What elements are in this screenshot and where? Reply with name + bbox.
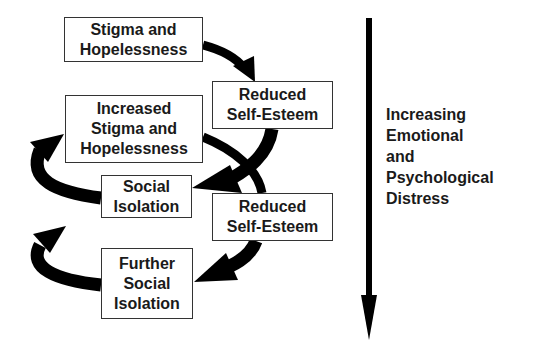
box-line: Stigma and (80, 20, 188, 40)
label-line: Distress (386, 188, 494, 209)
box-line: Social (114, 177, 180, 197)
box-line: Increased (80, 99, 188, 119)
arrow-self-esteem-to-further-isolation (194, 241, 256, 282)
arrow-further-isolation-loop (33, 226, 101, 285)
box-reduced-self-esteem-2: Reduced Self-Esteem (212, 193, 333, 241)
distress-arrow (361, 18, 377, 340)
box-line: Reduced (227, 85, 319, 105)
label-line: Psychological (386, 167, 494, 188)
box-further-social-isolation: Further Social Isolation (101, 248, 193, 319)
box-increased-stigma-hopelessness: Increased Stigma and Hopelessness (65, 95, 203, 163)
box-line: Self-Esteem (227, 217, 319, 237)
label-line: and (386, 146, 494, 167)
box-social-isolation: Social Isolation (101, 175, 192, 218)
box-line: Self-Esteem (227, 105, 319, 125)
box-line: Isolation (114, 197, 180, 217)
box-line: Hopelessness (80, 40, 188, 60)
arrow-stigma-to-self-esteem (203, 45, 255, 82)
label-line: Emotional (386, 125, 494, 146)
box-line: Further (114, 254, 180, 274)
distress-label: Increasing Emotional and Psychological D… (386, 104, 494, 209)
box-line: Reduced (227, 197, 319, 217)
box-line: Social (114, 274, 180, 294)
box-stigma-hopelessness: Stigma and Hopelessness (64, 17, 203, 62)
box-line: Hopelessness (80, 139, 188, 159)
label-line: Increasing (386, 104, 494, 125)
box-line: Isolation (114, 294, 180, 314)
box-line: Stigma and (80, 119, 188, 139)
box-reduced-self-esteem-1: Reduced Self-Esteem (212, 81, 333, 129)
